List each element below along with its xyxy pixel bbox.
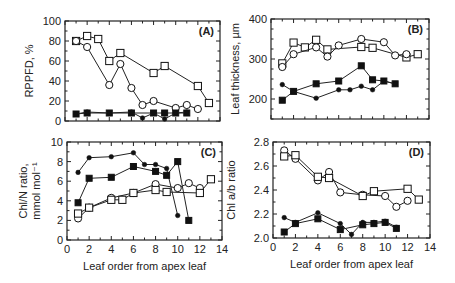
square-marker: [281, 229, 287, 235]
circle-marker: [106, 81, 113, 88]
square-marker: [74, 210, 81, 217]
square-marker: [205, 99, 212, 106]
square-marker: [279, 97, 285, 103]
panel-d: 024681012142.02.22.42.62.8(D)Chl a/b rat…: [225, 136, 436, 270]
series-open-squares: [74, 176, 214, 218]
plot-frame: [271, 19, 429, 119]
series-open-circles: [74, 180, 203, 222]
dot-marker: [338, 221, 343, 226]
dot-marker: [164, 166, 169, 171]
dot-marker: [153, 162, 158, 167]
series-open-squares: [281, 152, 423, 204]
square-marker: [358, 63, 364, 69]
dot-marker: [140, 116, 145, 121]
x-tick-label: 6: [130, 243, 136, 255]
square-marker: [415, 196, 422, 203]
series-open-circles: [72, 37, 201, 112]
x-tick-label: 12: [194, 243, 206, 255]
dot-marker: [280, 82, 285, 87]
square-marker: [370, 77, 376, 83]
x-tick-label: 0: [270, 241, 276, 253]
x-tick-label: 14: [216, 243, 228, 255]
y-tick-label: 200: [249, 93, 267, 105]
dot-marker: [336, 88, 341, 93]
x-tick-label: 6: [337, 241, 343, 253]
series-open-squares: [72, 32, 212, 106]
x-axis-label: Leaf order from apex leaf: [290, 258, 414, 270]
square-marker: [186, 217, 192, 223]
panel-b: 200300400(B)Leaf thickness, µm: [229, 13, 429, 119]
square-marker: [314, 173, 321, 180]
y-tick-label: 2.4: [254, 184, 269, 196]
y-axis-label: Chl/N ratio,: [17, 163, 29, 218]
dot-marker: [382, 79, 387, 84]
square-marker: [358, 43, 365, 50]
panel-label: (D): [409, 146, 425, 158]
circle-marker: [380, 39, 387, 46]
y-tick-label: 100: [43, 15, 61, 27]
y-tick-label: 400: [249, 13, 267, 25]
circle-marker: [404, 197, 411, 204]
square-marker: [130, 189, 137, 196]
y-tick-label: 20: [49, 95, 61, 107]
square-marker: [207, 176, 214, 183]
square-marker: [313, 81, 319, 87]
x-axis-label: Leaf order from apex leaf: [83, 260, 207, 272]
x-tick-label: 4: [315, 241, 321, 253]
square-marker: [313, 36, 320, 43]
circle-marker: [392, 52, 399, 59]
y-tick-label: 300: [249, 53, 267, 65]
circle-marker: [72, 37, 79, 44]
circle-marker: [382, 192, 389, 199]
series-filled-squares: [279, 63, 398, 103]
dot-marker: [87, 155, 92, 160]
circle-marker: [194, 105, 201, 112]
y-tick-label: 8: [57, 156, 63, 168]
circle-marker: [139, 101, 146, 108]
y-tick-label: 2: [57, 214, 63, 226]
square-marker: [404, 185, 411, 192]
dot-marker: [316, 211, 321, 216]
square-marker: [163, 188, 170, 195]
y-tick-label: 2.8: [254, 136, 269, 148]
circle-marker: [313, 44, 320, 51]
square-marker: [150, 69, 157, 76]
x-tick-label: 2: [86, 243, 92, 255]
panel-c: 024681012140246810(C)Chl/N ratio,mmol mo…: [17, 136, 228, 272]
square-marker: [108, 174, 114, 180]
square-marker: [382, 219, 388, 225]
y-tick-label: 60: [49, 55, 61, 67]
square-marker: [106, 57, 113, 64]
figure: 020406080100(A)RPPFD, %200300400(B)Leaf …: [0, 0, 455, 283]
square-marker: [86, 204, 93, 211]
dot-marker: [129, 110, 134, 115]
x-tick-label: 4: [108, 243, 114, 255]
dot-marker: [173, 111, 178, 116]
x-tick-label: 2: [292, 241, 298, 253]
x-tick-label: 10: [172, 243, 184, 255]
x-tick-label: 14: [424, 241, 436, 253]
circle-marker: [183, 101, 190, 108]
x-tick-label: 0: [64, 243, 70, 255]
dot-marker: [291, 89, 296, 94]
square-marker: [324, 46, 331, 53]
square-marker: [360, 222, 366, 228]
square-marker: [161, 62, 168, 69]
dot-marker: [349, 232, 354, 237]
circle-marker: [150, 97, 157, 104]
square-marker: [194, 82, 201, 89]
dot-marker: [162, 117, 167, 122]
square-marker: [152, 186, 159, 193]
square-marker: [164, 172, 170, 178]
y-axis-unit-label: mmol mol⁻¹: [30, 162, 42, 220]
square-marker: [130, 164, 136, 170]
square-marker: [281, 153, 288, 160]
square-marker: [336, 78, 342, 84]
y-tick-label: 80: [49, 35, 61, 47]
series-open-circles: [281, 147, 412, 211]
square-marker: [119, 196, 126, 203]
square-marker: [117, 49, 124, 56]
x-tick-label: 10: [379, 241, 391, 253]
circle-marker: [337, 189, 344, 196]
y-tick-label: 6: [57, 175, 63, 187]
